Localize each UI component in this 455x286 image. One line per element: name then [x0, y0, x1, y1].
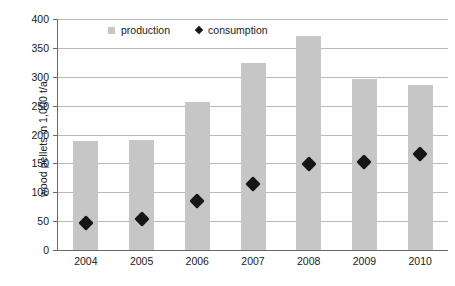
x-tick-label-2008: 2008	[279, 255, 339, 267]
y-tick-mark	[53, 19, 58, 20]
y-tick-mark	[53, 192, 58, 193]
x-tick-label-2010: 2010	[390, 255, 450, 267]
y-tick-label: 50	[37, 215, 49, 227]
y-tick-label: 250	[31, 100, 49, 112]
y-tick-mark	[53, 48, 58, 49]
bar-2006	[185, 102, 210, 250]
y-tick-label: 350	[31, 42, 49, 54]
wood-pellets-chart: wood pellets in 1,000 t/a production con…	[0, 0, 455, 286]
gridline	[58, 19, 448, 20]
y-tick-mark	[53, 250, 58, 251]
y-tick-mark	[53, 135, 58, 136]
x-tick-label-2007: 2007	[223, 255, 283, 267]
bar-2007	[241, 63, 266, 250]
plot-area: 050100150200250300350400 200420052006200…	[58, 19, 448, 250]
y-tick-label: 200	[31, 129, 49, 141]
x-tick-label-2004: 2004	[56, 255, 116, 267]
y-tick-mark	[53, 163, 58, 164]
x-tick-label-2006: 2006	[167, 255, 227, 267]
y-tick-label: 150	[31, 157, 49, 169]
gridline	[58, 48, 448, 49]
bar-2010	[408, 85, 433, 250]
bar-2004	[73, 141, 98, 250]
y-tick-label: 100	[31, 186, 49, 198]
y-tick-mark	[53, 221, 58, 222]
x-tick-label-2009: 2009	[334, 255, 394, 267]
y-tick-mark	[53, 106, 58, 107]
y-tick-mark	[53, 77, 58, 78]
x-axis-line	[57, 250, 448, 251]
y-tick-label: 0	[43, 244, 49, 256]
y-tick-label: 400	[31, 13, 49, 25]
bar-2008	[296, 36, 321, 250]
x-tick-label-2005: 2005	[112, 255, 172, 267]
bar-2005	[129, 140, 154, 250]
y-tick-label: 300	[31, 71, 49, 83]
